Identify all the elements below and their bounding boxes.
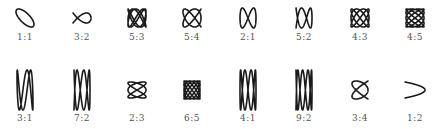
ratio-label: 5:3 — [109, 32, 165, 42]
ratio-label: 3:4 — [332, 113, 388, 123]
lissajous-curve-icon — [164, 0, 220, 34]
lissajous-curve-icon — [387, 0, 435, 34]
ratio-label: 2:3 — [109, 113, 165, 123]
ratio-label: 1:1 — [0, 32, 53, 42]
ratio-label: 7:2 — [54, 113, 110, 123]
lissajous-curve-icon — [109, 66, 165, 114]
ratio-label: 4:3 — [332, 32, 388, 42]
lissajous-curve-icon — [54, 66, 110, 114]
lissajous-curve-icon — [276, 0, 332, 34]
ratio-label: 5:4 — [164, 32, 220, 42]
ratio-label: 6:5 — [164, 113, 220, 123]
lissajous-curve-icon — [332, 0, 388, 34]
ratio-label: 1:2 — [387, 113, 435, 123]
ratio-label: 4:1 — [220, 113, 276, 123]
ratio-label: 2:1 — [220, 32, 276, 42]
lissajous-figure: 1:1 3:2 5:3 5:4 2:1 5:2 4:3 4:5 3:1 7:2 … — [0, 0, 435, 129]
lissajous-curve-icon — [220, 0, 276, 34]
lissajous-curve-icon — [54, 0, 110, 34]
lissajous-curve-icon — [276, 66, 332, 114]
lissajous-curve-icon — [332, 66, 388, 114]
lissajous-curve-icon — [387, 66, 435, 114]
lissajous-curve-icon — [109, 0, 165, 34]
ratio-label: 5:2 — [276, 32, 332, 42]
ratio-label: 4:5 — [387, 32, 435, 42]
lissajous-curve-icon — [220, 66, 276, 114]
lissajous-curve-icon — [0, 0, 53, 34]
lissajous-curve-icon — [164, 66, 220, 114]
lissajous-curve-icon — [0, 66, 53, 114]
ratio-label: 9:2 — [276, 113, 332, 123]
ratio-label: 3:1 — [0, 113, 53, 123]
ratio-label: 3:2 — [54, 32, 110, 42]
